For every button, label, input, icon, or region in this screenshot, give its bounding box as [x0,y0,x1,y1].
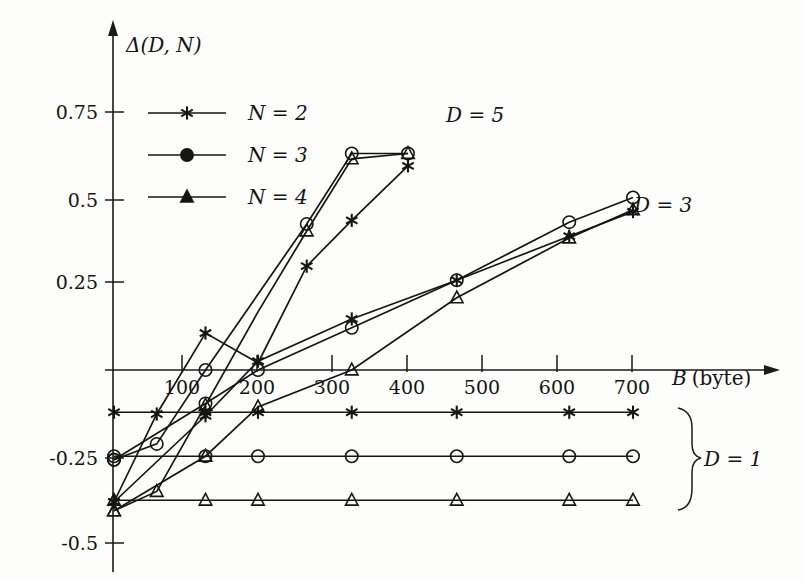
x-tick-label-2: 300 [314,376,350,398]
triangle-marker [345,493,358,505]
x-tick-label-5: 600 [539,376,575,398]
group-label-d3: D = 3 [633,193,692,217]
legend: N = 2N = 3N = 4 [148,101,308,209]
legend-entry-n3: N = 3 [148,143,308,167]
legend-label: N = 2 [247,101,308,125]
series-n2 [108,406,638,419]
x-axis-title-var: B [671,366,687,390]
legend-entry-n4: N = 4 [148,185,308,209]
series-n3 [108,191,639,466]
legend-entry-n2: N = 2 [148,101,308,125]
x-axis-arrowhead [764,365,780,375]
x-axis-title-unit: (byte) [692,366,752,390]
y-tick-label-4: -0.5 [61,532,98,554]
y-tick-label-0: 0.75 [56,101,98,123]
legend-label: N = 4 [247,185,308,209]
series-n3 [108,450,639,462]
y-tick-label-1: 0.5 [68,189,98,211]
group-label-d1: D = 1 [703,447,762,471]
x-tick-label-6: 700 [614,376,650,398]
series-group-d3 [108,191,640,515]
legend-label: N = 3 [247,143,308,167]
triangle-marker [252,493,265,505]
circle-marker [181,149,193,161]
y-axis [108,20,118,572]
d1-brace [678,408,701,510]
star-marker [200,326,211,339]
triangle-marker [181,190,194,202]
series-group-d1 [108,406,640,505]
y-tick-label-3: -0.25 [49,447,98,469]
series-n4 [108,493,640,505]
x-tick-label-4: 500 [464,376,500,398]
group-label-d5: D = 5 [445,103,504,127]
y-axis-title: Δ(D, N) [125,33,202,57]
y-tick-label-2: 0.25 [56,271,98,293]
star-marker [151,407,162,420]
x-tick-label-3: 400 [389,376,425,398]
y-axis-arrowhead [108,20,118,36]
triangle-marker [627,493,640,505]
triangle-marker [450,493,463,505]
chart-figure: 0.75 0.5 0.25 -0.25 -0.5 100 200 300 400… [0,0,804,582]
triangle-marker [563,493,576,505]
x-axis-title: B(byte) [671,366,751,390]
series-n4 [108,203,640,516]
plot-canvas: 0.75 0.5 0.25 -0.25 -0.5 100 200 300 400… [0,0,804,582]
series-n2 [108,205,638,509]
triangle-marker [199,493,212,505]
y-ticks [105,112,124,543]
